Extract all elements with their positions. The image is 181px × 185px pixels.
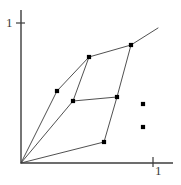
plot-segment	[131, 28, 158, 45]
y-axis-tick-label: 1	[6, 16, 13, 29]
plot-segment	[117, 45, 131, 97]
plot-segment	[73, 57, 89, 101]
x-axis-tick-label: 1	[155, 164, 162, 177]
scatter-plot-figure: 1 1	[0, 0, 181, 185]
data-point-marker	[129, 43, 133, 47]
data-point-marker	[87, 55, 91, 59]
plot-segment	[104, 97, 117, 142]
data-points-group	[55, 43, 145, 144]
data-point-marker	[55, 89, 59, 93]
data-point-marker	[115, 95, 119, 99]
polygon-segments-group	[21, 28, 158, 163]
data-point-marker	[71, 99, 75, 103]
plot-segment	[73, 97, 117, 101]
data-point-marker	[141, 125, 145, 129]
data-point-marker	[102, 140, 106, 144]
plot-segment	[57, 57, 89, 91]
data-point-marker	[141, 102, 145, 106]
plot-canvas	[0, 0, 181, 185]
plot-segment	[89, 45, 131, 57]
plot-segment	[21, 142, 104, 163]
